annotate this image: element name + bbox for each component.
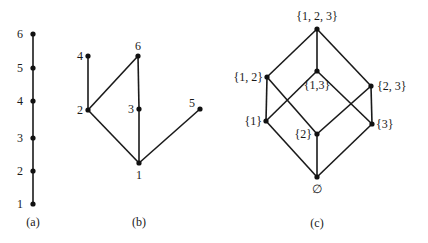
node-2 — [30, 168, 35, 173]
edge-s23-s2 — [317, 86, 371, 134]
node-label: 3 — [17, 131, 23, 145]
node-label: 6 — [135, 39, 141, 53]
node-1 — [136, 160, 141, 165]
diagram-a-chain: 123456(a) — [17, 27, 40, 229]
node-6 — [135, 53, 140, 58]
edge-3-6 — [138, 56, 139, 109]
edge-s23-s3 — [371, 86, 372, 124]
node-label: 2 — [77, 103, 83, 117]
node-s23 — [368, 83, 373, 88]
node-s2 — [314, 131, 319, 136]
node-4 — [85, 53, 90, 58]
node-5 — [197, 106, 202, 111]
node-label: {3} — [376, 117, 394, 131]
node-label: 1 — [17, 197, 23, 211]
node-3 — [30, 135, 35, 140]
diagram-c-powerset-lattice: ∅{1}{2}{3}{1, 2}{1,3}{2, 3}{1, 2, 3}(c) — [233, 9, 406, 230]
node-4 — [30, 98, 35, 103]
diagram-b-divisibility-poset: 123456(b) — [77, 39, 203, 229]
node-label: ∅ — [312, 182, 322, 196]
node-label: {2} — [294, 127, 312, 141]
node-label: 4 — [77, 49, 83, 63]
hasse-diagrams-figure: 123456(a) 123456(b) ∅{1}{2}{3}{1, 2}{1,3… — [0, 0, 428, 243]
node-label: 2 — [17, 164, 23, 178]
node-3 — [136, 106, 141, 111]
edge-s3-empty — [317, 124, 372, 177]
node-label: {1, 2, 3} — [296, 9, 338, 23]
node-label: 1 — [136, 168, 142, 182]
node-s3 — [369, 121, 374, 126]
node-label: {1} — [244, 114, 262, 128]
edge-s123-s12 — [267, 29, 317, 77]
node-label: {1,3} — [304, 78, 331, 92]
node-label: 5 — [17, 61, 23, 75]
node-2 — [85, 107, 90, 112]
node-label: 6 — [17, 27, 23, 41]
edge-1-2 — [88, 110, 139, 163]
node-s12 — [264, 74, 269, 79]
node-5 — [30, 65, 35, 70]
node-label: 5 — [189, 96, 195, 110]
diagram-caption: (b) — [132, 215, 146, 229]
node-label: {1, 2} — [233, 70, 263, 84]
node-s123 — [314, 26, 319, 31]
node-empty — [314, 174, 319, 179]
node-label: {2, 3} — [377, 79, 407, 93]
node-6 — [30, 31, 35, 36]
node-label: 4 — [17, 94, 23, 108]
edge-s12-s1 — [266, 77, 267, 121]
node-s1 — [263, 118, 268, 123]
diagram-caption: (a) — [26, 215, 39, 229]
node-s13 — [314, 68, 319, 73]
node-label: 3 — [128, 102, 134, 116]
node-1 — [30, 201, 35, 206]
edge-1-5 — [139, 109, 200, 163]
diagram-caption: (c) — [310, 216, 323, 230]
